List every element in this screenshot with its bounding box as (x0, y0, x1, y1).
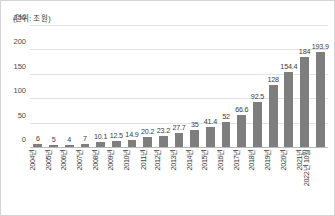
bar[interactable]: 6 (33, 144, 42, 147)
y-axis-tick-label: 250 (13, 13, 26, 22)
x-axis-labels: 2004년2005년2006년2007년2008년2009년2010년2011년… (30, 149, 328, 213)
x-axis-tick-label: 2006년 (58, 149, 68, 171)
bar-series: 654710.112.514.920.223.227.73541.45266.6… (30, 25, 328, 147)
x-axis-tick-label: 2005년 (43, 149, 53, 171)
bar-value-label: 27.7 (172, 123, 185, 132)
bar-value-label: 184 (299, 47, 310, 56)
x-axis-tick-label: 2004년 (27, 149, 37, 171)
bar-value-label: 193.9 (312, 42, 329, 51)
bar-slot: 41.4 (203, 25, 219, 147)
bar[interactable]: 41.4 (206, 127, 215, 147)
bar-value-label: 154.4 (280, 62, 297, 71)
bar-chart-figure: (단위: 조 원) 050100150200250 654710.112.514… (0, 0, 335, 216)
bar-value-label: 66.6 (235, 105, 248, 114)
bar[interactable]: 27.7 (175, 133, 184, 147)
y-axis-tick-label: 150 (13, 61, 26, 70)
bar[interactable]: 5 (49, 145, 58, 147)
x-axis-tick-label: 2013년 (168, 149, 178, 171)
bar-slot: 184 (297, 25, 313, 147)
y-axis-tick-label: 100 (13, 86, 26, 95)
bar[interactable]: 66.6 (237, 115, 246, 148)
bar-slot: 12.5 (108, 25, 124, 147)
y-axis-tick-label: 50 (18, 110, 26, 119)
bar[interactable]: 193.9 (316, 52, 325, 147)
bar-slot: 10.1 (93, 25, 109, 147)
bar[interactable]: 12.5 (112, 141, 121, 147)
bar-slot: 4 (61, 25, 77, 147)
x-axis-tick-label: 2011년 (137, 149, 147, 170)
bar-slot: 5 (46, 25, 62, 147)
bar[interactable]: 92.5 (253, 102, 262, 147)
bar-value-label: 10.1 (94, 132, 107, 141)
bar-value-label: 35 (191, 120, 199, 129)
plot-area: 050100150200250 654710.112.514.920.223.2… (30, 25, 328, 148)
bar[interactable]: 14.9 (128, 140, 137, 147)
bar-value-label: 12.5 (110, 131, 123, 140)
bar-slot: 23.2 (156, 25, 172, 147)
x-axis-tick-label: 2008년 (90, 149, 100, 171)
x-axis-tick-label: 2016년 (215, 149, 225, 171)
bar[interactable]: 10.1 (96, 142, 105, 147)
x-axis-tick-label: 2019년 (262, 149, 272, 171)
bar[interactable]: 184 (300, 57, 309, 147)
x-axis-tick-label: 2020년 (278, 149, 288, 171)
bar-slot: 6 (30, 25, 46, 147)
bar[interactable]: 35 (190, 130, 199, 147)
bar-value-label: 23.2 (157, 126, 170, 135)
bar-slot: 92.5 (250, 25, 266, 147)
bar-value-label: 52 (222, 112, 230, 121)
bar-value-label: 7 (83, 134, 87, 143)
x-axis-tick-label: 2022년 10월 (302, 149, 312, 186)
bar-slot: 128 (265, 25, 281, 147)
bar[interactable]: 4 (65, 145, 74, 147)
bar-slot: 20.2 (140, 25, 156, 147)
bar-slot: 35 (187, 25, 203, 147)
y-axis-tick-label: 200 (13, 37, 26, 46)
bar[interactable]: 154.4 (284, 72, 293, 147)
bar[interactable]: 23.2 (159, 136, 168, 147)
bar[interactable]: 20.2 (143, 137, 152, 147)
x-axis-tick-label: 2014년 (184, 149, 194, 171)
bar-value-label: 14.9 (125, 130, 138, 139)
x-axis-tick-label: 2007년 (74, 149, 84, 171)
x-axis-tick-label: 2010년 (121, 149, 131, 171)
bar-value-label: 5 (52, 135, 56, 144)
bar-value-label: 41.4 (204, 117, 217, 126)
bar-slot: 193.9 (312, 25, 328, 147)
bar-value-label: 128 (267, 75, 278, 84)
y-axis-tick-label: 0 (22, 135, 26, 144)
x-label-slot: 2022년 10월 (312, 149, 328, 213)
x-axis-tick-label: 2015년 (200, 149, 210, 171)
x-axis-tick-label: 2012년 (153, 149, 163, 171)
bar[interactable]: 7 (81, 144, 90, 147)
x-axis-tick-label: 2018년 (247, 149, 257, 171)
x-axis-tick-label: 2017년 (231, 149, 241, 171)
bar[interactable]: 52 (222, 122, 231, 147)
bar-slot: 7 (77, 25, 93, 147)
bar-slot: 52 (218, 25, 234, 147)
bar-slot: 66.6 (234, 25, 250, 147)
bar-value-label: 92.5 (251, 92, 264, 101)
bar-slot: 14.9 (124, 25, 140, 147)
bar[interactable]: 128 (269, 85, 278, 147)
bar-slot: 27.7 (171, 25, 187, 147)
bar-value-label: 6 (36, 134, 40, 143)
x-axis-tick-label: 2009년 (106, 149, 116, 171)
bar-value-label: 20.2 (141, 127, 154, 136)
bar-slot: 154.4 (281, 25, 297, 147)
x-axis-line (30, 147, 328, 148)
bar-value-label: 4 (67, 135, 71, 144)
